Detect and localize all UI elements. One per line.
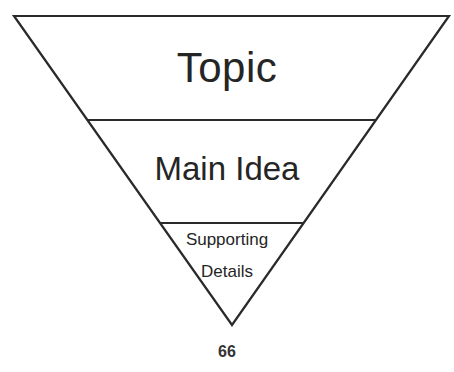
level-topic-label: Topic xyxy=(0,44,454,92)
level-supporting-label-line1: Supporting xyxy=(0,230,454,250)
level-main-idea-label: Main Idea xyxy=(0,150,454,188)
level-supporting-label-line2: Details xyxy=(0,262,454,282)
page-number: 66 xyxy=(0,343,454,361)
